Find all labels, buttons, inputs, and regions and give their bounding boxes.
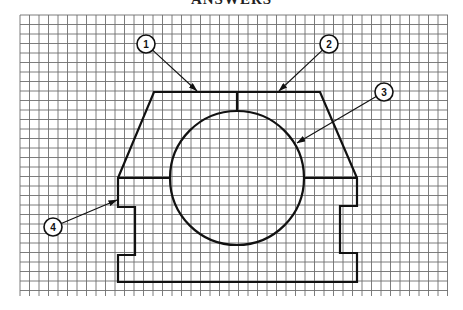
leader-arrow xyxy=(153,50,197,91)
callout-number: 4 xyxy=(50,222,56,233)
callout-number: 3 xyxy=(381,87,387,98)
callout-number: 2 xyxy=(326,39,332,50)
leader-arrow xyxy=(279,50,322,91)
grid-paper xyxy=(20,15,448,296)
bearing-block-part xyxy=(118,92,357,282)
technical-drawing: 1234 xyxy=(0,0,463,310)
part-outline xyxy=(118,92,357,282)
bore-circle xyxy=(170,111,304,245)
leader-arrow xyxy=(61,200,117,224)
callout-number: 1 xyxy=(143,39,149,50)
